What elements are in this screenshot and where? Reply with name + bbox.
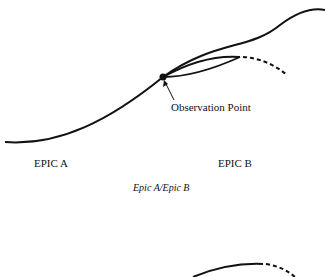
lower-figure-dashed-curve [266, 264, 295, 277]
dashed-continuation-curve [243, 57, 287, 75]
lower-figure-curve [193, 264, 263, 277]
observation-point-label: Observation Point [171, 101, 251, 113]
observation-point-marker [160, 74, 167, 81]
epic-a-label: EPIC A [34, 157, 68, 169]
upper-branch-curve [163, 57, 240, 77]
epic-b-label: EPIC B [218, 157, 252, 169]
figure-caption: Epic A/Epic B [133, 182, 189, 193]
epic-diagram-canvas [0, 0, 325, 277]
